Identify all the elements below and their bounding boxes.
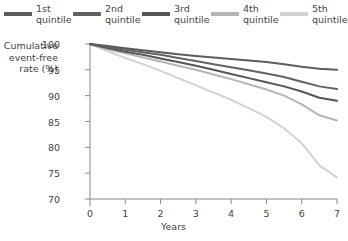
legend-swatch-2nd-quintile	[73, 12, 101, 16]
legend-item-1st-quintile: 1st quintile	[4, 3, 72, 25]
legend-item-2nd-quintile: 2nd quintile	[73, 3, 141, 25]
axes	[85, 43, 337, 206]
legend-label-4th-quintile: 4th quintile	[243, 3, 279, 25]
legend-label-5th-quintile: 5th quintile	[312, 3, 348, 25]
legend-item-3rd-quintile: 3rd quintile	[142, 3, 210, 25]
series-lines	[90, 44, 337, 177]
plot-svg	[0, 32, 347, 241]
legend-swatch-4th-quintile	[211, 12, 239, 16]
legend-label-1st-quintile: 1st quintile	[36, 3, 72, 25]
legend-swatch-1st-quintile	[4, 12, 32, 16]
legend-swatch-5th-quintile	[280, 12, 308, 16]
legend-item-4th-quintile: 4th quintile	[211, 3, 279, 25]
chart-legend: 1st quintile 2nd quintile 3rd quintile 4…	[0, 0, 347, 32]
legend-swatch-3rd-quintile	[142, 12, 170, 16]
legend-item-5th-quintile: 5th quintile	[280, 3, 348, 25]
legend-label-2nd-quintile: 2nd quintile	[105, 3, 141, 25]
legend-label-3rd-quintile: 3rd quintile	[174, 3, 210, 25]
plot-area: Cumulative event-free rate (%) Years 707…	[0, 32, 347, 241]
series-line	[90, 44, 337, 70]
